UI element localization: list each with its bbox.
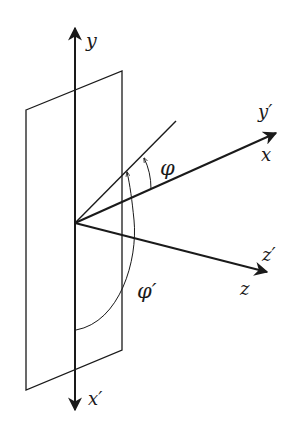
label-x-prime: x′ — [88, 388, 102, 409]
phi-arc — [144, 158, 151, 189]
x-axis — [75, 133, 276, 223]
label-y-prime: y′ — [257, 101, 272, 122]
label-z: z — [239, 278, 250, 299]
label-y: y — [85, 29, 97, 51]
label-phi-prime: φ′ — [137, 279, 157, 303]
z-axis — [75, 223, 267, 272]
label-phi: φ — [160, 156, 175, 180]
phi-prime-arc — [76, 172, 135, 330]
axes-diagram: y y′ x φ z′ z φ′ x′ — [0, 0, 297, 432]
label-x: x — [261, 144, 271, 165]
label-z-prime: z′ — [261, 244, 276, 265]
